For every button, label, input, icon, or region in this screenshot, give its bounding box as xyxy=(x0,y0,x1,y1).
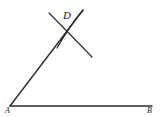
point-label-d: D xyxy=(63,10,71,21)
point-label-b: B xyxy=(147,107,152,115)
point-label-a: A xyxy=(5,107,10,115)
geometry-figure: D A B xyxy=(0,0,160,117)
figure-canvas xyxy=(0,0,160,117)
